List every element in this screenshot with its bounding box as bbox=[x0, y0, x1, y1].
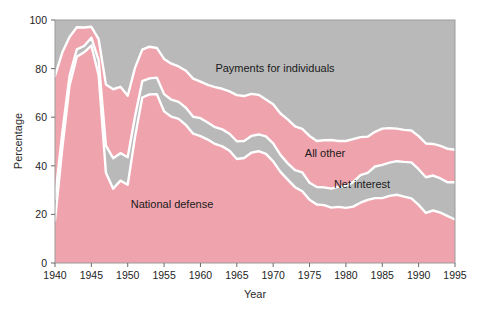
y-axis-title: Percentage bbox=[12, 113, 24, 169]
x-tick-label: 1975 bbox=[298, 269, 322, 281]
y-tick-label: 60 bbox=[35, 111, 47, 123]
x-tick-label: 1950 bbox=[116, 269, 140, 281]
area-bands bbox=[55, 20, 455, 263]
y-tick-label: 20 bbox=[35, 208, 47, 220]
x-tick-label: 1945 bbox=[80, 269, 104, 281]
x-tick-label: 1960 bbox=[189, 269, 213, 281]
x-axis-title: Year bbox=[244, 288, 267, 300]
x-tick-label: 1955 bbox=[152, 269, 176, 281]
series-label: National defense bbox=[131, 198, 214, 210]
plot-area bbox=[55, 20, 455, 263]
stacked-area-chart: 020406080100 194019451950195519601965197… bbox=[0, 0, 477, 317]
series-label: Net interest bbox=[334, 178, 390, 190]
series-label: All other bbox=[305, 147, 346, 159]
x-tick-label: 1985 bbox=[371, 269, 395, 281]
y-tick-label: 80 bbox=[35, 63, 47, 75]
y-tick-label: 100 bbox=[29, 14, 47, 26]
series-label: Payments for individuals bbox=[215, 62, 335, 74]
y-tick-label: 40 bbox=[35, 160, 47, 172]
y-tick-label: 0 bbox=[41, 257, 47, 269]
x-tick-label: 1970 bbox=[262, 269, 286, 281]
x-tick-label: 1990 bbox=[407, 269, 431, 281]
x-tick-label: 1995 bbox=[443, 269, 467, 281]
x-tick-label: 1965 bbox=[225, 269, 249, 281]
x-tick-label: 1940 bbox=[43, 269, 67, 281]
x-tick-label: 1980 bbox=[334, 269, 358, 281]
